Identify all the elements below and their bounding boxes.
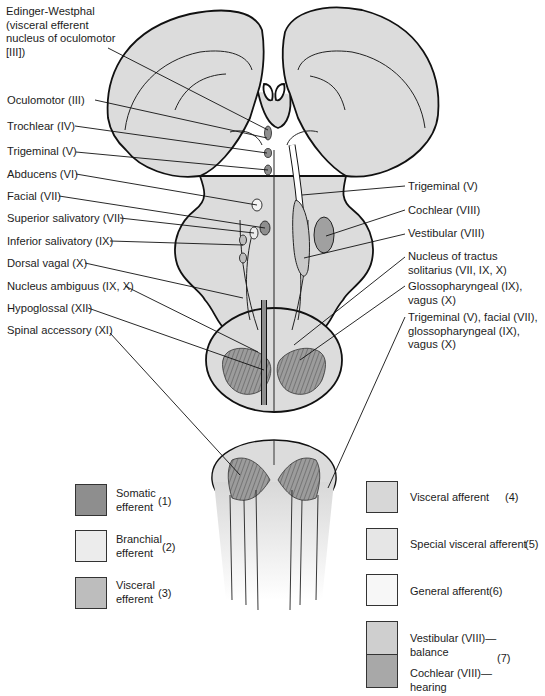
label-trochlear: Trochlear (IV) [7,120,75,134]
label-dorsal-vagal: Dorsal vagal (X) [7,257,87,271]
legend-num-1: (1) [158,495,171,507]
legend-label-branchial-efferent: Branchial efferent [116,533,162,560]
legend-num-3: (3) [158,587,171,599]
legend-swatch-cochlear-hearing [366,654,398,688]
legend-swatch-vestibular-balance [366,621,398,655]
legend-swatch-visceral-efferent [75,577,107,609]
label-superior-salivatory: Superior salivatory (VII) [7,212,124,226]
legend-swatch-somatic-efferent [75,484,107,516]
legend-label-cochlear-hearing: Cochlear (VIII)— hearing [410,667,492,694]
legend-label-visceral-efferent: Visceral efferent [116,579,155,606]
legend-swatch-visceral-afferent [366,481,398,513]
label-trigeminal-left: Trigeminal (V) [7,145,77,159]
label-inferior-salivatory: Inferior salivatory (IX) [7,235,113,249]
brainstem-cranial-nerve-nuclei-figure: Edinger-Westphal (visceral efferent nucl… [0,0,545,696]
legend-swatch-special-visceral-afferent [366,528,398,560]
legend-swatch-general-afferent [366,574,398,606]
label-vestibular: Vestibular (VIII) [408,227,484,241]
label-abducens: Abducens (VI) [7,168,78,182]
label-trigeminal-right: Trigeminal (V) [408,180,478,194]
label-trigeminal-facial-glosso-vagus: Trigeminal (V), facial (VII), glossophar… [408,311,538,352]
label-nucleus-tractus-solitarius: Nucleus of tractus solitarius (VII, IX, … [408,250,507,277]
legend-swatch-branchial-efferent [75,530,107,562]
oculomotor-nuclei [265,126,272,175]
legend-num-5: (5) [525,538,538,550]
label-glossopharyngeal-vagus: Glossopharyngeal (IX), vagus (X) [408,280,522,307]
legend-label-vestibular-balance: Vestibular (VIII)— balance [410,632,496,659]
legend-num-6: (6) [489,585,502,597]
label-hypoglossal: Hypoglossal (XII) [7,302,92,316]
legend-label-visceral-afferent: Visceral afferent [410,491,489,505]
legend-num-2: (2) [162,541,175,553]
label-edinger-westphal: Edinger-Westphal (visceral efferent nucl… [6,5,115,59]
label-nucleus-ambiguus: Nucleus ambiguus (IX, X) [7,280,134,294]
legend-label-general-afferent: General afferent [410,585,489,599]
label-spinal-accessory: Spinal accessory (XI) [7,324,113,338]
legend-num-4: (4) [505,491,518,503]
legend-label-somatic-efferent: Somatic efferent [116,487,156,514]
label-oculomotor: Oculomotor (III) [7,94,85,108]
legend-label-special-visceral-afferent: Special visceral afferent [410,538,527,552]
legend-num-7: (7) [497,652,510,664]
label-cochlear: Cochlear (VIII) [408,204,480,218]
label-facial: Facial (VII) [7,190,61,204]
